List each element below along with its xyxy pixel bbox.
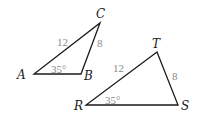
angle-r-measure: 35° [105,94,120,106]
triangle-diagram: C A B 12 8 35° T R S 12 8 35° [0,0,202,126]
vertex-s-label: S [181,99,189,113]
vertex-a-label: A [16,68,26,82]
side-ac-length: 12 [57,36,68,48]
vertex-c-label: C [96,7,105,21]
vertex-t-label: T [152,37,161,51]
triangle-abc: C A B 12 8 35° [16,7,105,83]
triangle-abc-shape [34,23,100,74]
angle-a-measure: 35° [51,63,66,75]
vertex-r-label: R [73,99,83,113]
vertex-b-label: B [83,69,93,83]
side-bc-length: 8 [97,37,103,49]
side-st-length: 8 [172,70,178,82]
triangle-rst-shape [86,52,178,105]
side-rt-length: 12 [113,62,124,74]
